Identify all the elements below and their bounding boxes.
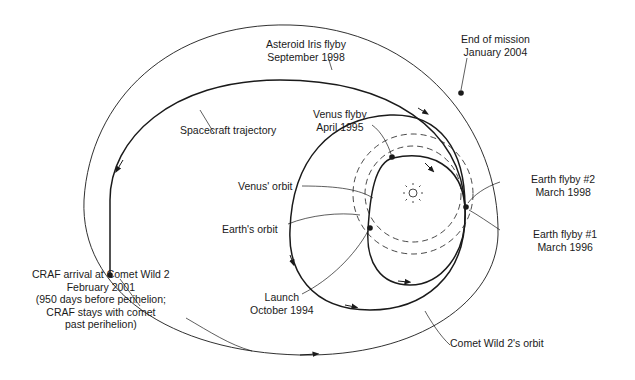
earth-flyby-point bbox=[463, 204, 469, 210]
earth-flyby-2-label: Earth flyby #2 March 1998 bbox=[531, 173, 595, 198]
asteroid-iris-line2: September 1998 bbox=[266, 51, 346, 64]
spacecraft-trajectory-text: Spacecraft trajectory bbox=[180, 124, 276, 137]
asteroid-iris-line1: Asteroid Iris flyby bbox=[266, 38, 346, 51]
comet-orbit-text: Comet Wild 2's orbit bbox=[450, 337, 544, 350]
earth-flyby-1-line2: March 1996 bbox=[533, 241, 597, 254]
earth-flyby-2-line2: March 1998 bbox=[531, 186, 595, 199]
spacecraft-trajectory-label: Spacecraft trajectory bbox=[180, 124, 276, 137]
launch-label: Launch October 1994 bbox=[250, 291, 314, 316]
end-of-mission-label: End of mission January 2004 bbox=[461, 33, 530, 58]
end-of-mission-point bbox=[458, 90, 464, 96]
craf-arrival-line3: (950 days before perihelion; bbox=[32, 293, 170, 306]
launch-line2: October 1994 bbox=[250, 304, 314, 317]
comet-orbit-label: Comet Wild 2's orbit bbox=[450, 337, 544, 350]
trajectory-arrow-6 bbox=[418, 108, 426, 113]
earth-flyby-1-label: Earth flyby #1 March 1996 bbox=[533, 228, 597, 253]
venus-orbit-label: Venus' orbit bbox=[238, 180, 293, 193]
end-of-mission-line2: January 2004 bbox=[461, 46, 530, 59]
venus-orbit-text: Venus' orbit bbox=[238, 180, 293, 193]
venus-flyby-line1: Venus flyby bbox=[313, 108, 367, 121]
launch-line1: Launch bbox=[250, 291, 314, 304]
asteroid-iris-flyby-label: Asteroid Iris flyby September 1998 bbox=[266, 38, 346, 63]
earth-flyby-2-line1: Earth flyby #2 bbox=[531, 173, 595, 186]
trajectory-arrow-3 bbox=[345, 305, 355, 307]
end-of-mission-line1: End of mission bbox=[461, 33, 530, 46]
trajectory-arrow-5 bbox=[425, 163, 432, 170]
earth-orbit-text: Earth's orbit bbox=[222, 223, 278, 236]
craf-arrival-line1: CRAF arrival at Comet Wild 2 bbox=[32, 268, 170, 281]
earth-orbit-label: Earth's orbit bbox=[222, 223, 278, 236]
trajectory-arrow-4 bbox=[398, 281, 408, 282]
craf-arrival-line4: CRAF stays with comet bbox=[32, 306, 170, 319]
venus-flyby-line2: April 1995 bbox=[313, 121, 367, 134]
craf-arrival-line2: February 2001 bbox=[32, 281, 170, 294]
venus-flyby-label: Venus flyby April 1995 bbox=[313, 108, 367, 133]
craf-arrival-line5: past perihelion) bbox=[32, 318, 170, 331]
venus-orbit bbox=[365, 146, 461, 242]
craf-arrival-label: CRAF arrival at Comet Wild 2 February 20… bbox=[32, 268, 170, 331]
launch-point bbox=[367, 225, 373, 231]
sun-icon bbox=[403, 183, 423, 203]
venus-flyby-point bbox=[389, 154, 395, 160]
earth-flyby-1-line1: Earth flyby #1 bbox=[533, 228, 597, 241]
